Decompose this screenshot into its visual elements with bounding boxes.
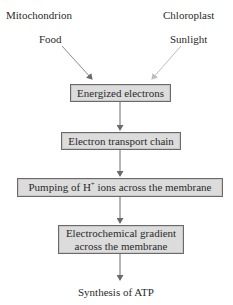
electrochemical-gradient-line2: across the membrane [75, 240, 168, 253]
energized-electrons-box: Energized electrons [70, 84, 171, 102]
electrochemical-gradient-box: Electrochemical gradient across the memb… [58, 225, 184, 254]
proton-pumping-label: Pumping of H+ ions across the membrane [29, 181, 212, 194]
mitochondrion-label: Mitochondrion [6, 9, 72, 22]
arrow-sunlight-to-electrons [152, 46, 181, 79]
proton-pumping-suffix: ions across the membrane [95, 181, 212, 193]
proton-pumping-box: Pumping of H+ ions across the membrane [17, 178, 223, 197]
sunlight-label: Sunlight [170, 33, 207, 46]
electron-transport-chain-box: Electron transport chain [61, 132, 181, 150]
proton-pumping-prefix: Pumping of H [29, 181, 91, 193]
arrow-food-to-electrons [62, 46, 92, 79]
energized-electrons-label: Energized electrons [77, 87, 164, 100]
chloroplast-label: Chloroplast [163, 9, 214, 22]
electron-transport-chain-label: Electron transport chain [68, 135, 174, 148]
electrochemical-gradient-line1: Electrochemical gradient [66, 227, 176, 240]
food-label: Food [39, 33, 62, 46]
atp-synthesis-label: Synthesis of ATP [78, 286, 154, 299]
